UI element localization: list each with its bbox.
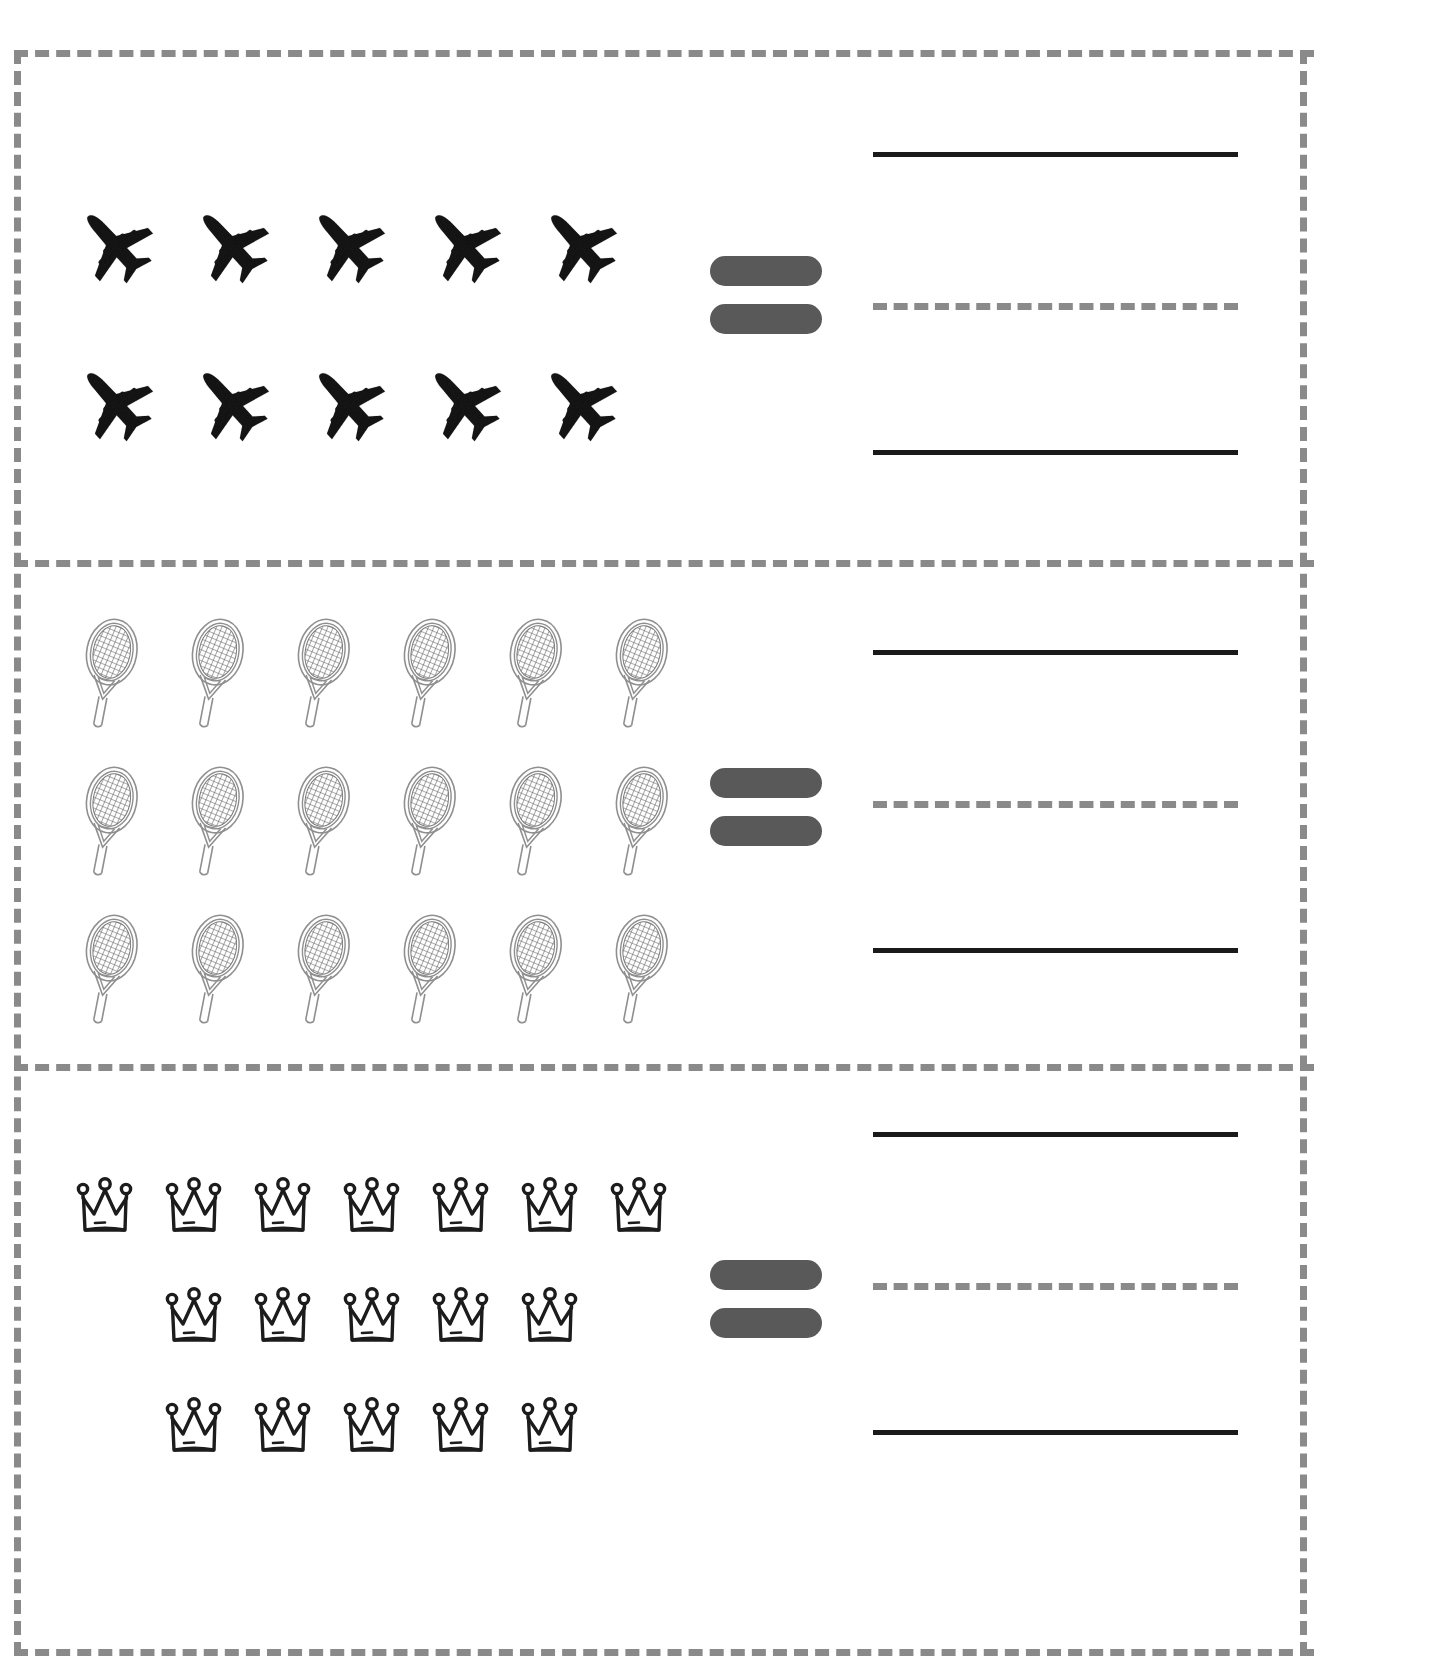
- crown-icon: [430, 1286, 492, 1348]
- equals-bar-top: [710, 768, 822, 798]
- tennis-racket-icon: [608, 756, 674, 880]
- equals-bar-top: [710, 256, 822, 286]
- answer-line-bottom: [873, 948, 1238, 953]
- problem-3: [0, 1064, 1434, 1624]
- icon-row: [74, 1176, 670, 1238]
- crown-icon: [341, 1176, 403, 1238]
- airplane-icon: [534, 360, 624, 444]
- tennis-racket-icon: [78, 608, 144, 732]
- problem-2-icon-area: [60, 560, 680, 1064]
- equals-bar-bottom: [710, 304, 822, 334]
- airplane-icon: [418, 360, 508, 444]
- crown-icon: [252, 1176, 314, 1238]
- answer-area[interactable]: [873, 152, 1238, 455]
- crown-icon: [430, 1176, 492, 1238]
- problem-1-icon-area: [60, 56, 680, 560]
- airplane-icon: [302, 202, 392, 286]
- crown-icon: [519, 1176, 581, 1238]
- crown-icon: [519, 1286, 581, 1348]
- tennis-racket-icon: [396, 904, 462, 1028]
- airplane-icon: [186, 202, 276, 286]
- answer-line-middle-guide: [873, 303, 1238, 310]
- tennis-racket-icon: [78, 904, 144, 1028]
- tennis-racket-icon: [184, 608, 250, 732]
- crown-icon: [163, 1396, 225, 1458]
- tennis-racket-icon: [502, 608, 568, 732]
- crown-icon: [608, 1176, 670, 1238]
- icon-row: [70, 202, 624, 286]
- icon-row: [78, 608, 674, 732]
- airplane-icon: [418, 202, 508, 286]
- icon-row: [78, 904, 674, 1028]
- equals-sign: [710, 256, 822, 334]
- answer-line-bottom: [873, 450, 1238, 455]
- airplane-icon: [70, 360, 160, 444]
- tennis-racket-icon: [290, 608, 356, 732]
- equals-sign: [710, 1260, 822, 1338]
- equals-bar-bottom: [710, 816, 822, 846]
- icon-row: [70, 360, 624, 444]
- crown-icon: [74, 1176, 136, 1238]
- tennis-racket-icon: [396, 756, 462, 880]
- answer-line-middle-guide: [873, 801, 1238, 808]
- tennis-racket-icon: [184, 904, 250, 1028]
- tennis-racket-icon: [290, 904, 356, 1028]
- icon-row: [163, 1396, 581, 1458]
- tennis-racket-icon: [502, 756, 568, 880]
- equals-bar-top: [710, 1260, 822, 1290]
- tennis-racket-icon: [290, 756, 356, 880]
- airplane-icon: [70, 202, 160, 286]
- equals-bar-bottom: [710, 1308, 822, 1338]
- icon-row: [78, 756, 674, 880]
- answer-line-middle-guide: [873, 1283, 1238, 1290]
- airplane-icon: [302, 360, 392, 444]
- crown-icon: [252, 1396, 314, 1458]
- crown-icon: [252, 1286, 314, 1348]
- crown-icon: [430, 1396, 492, 1458]
- problem-1: [0, 56, 1434, 560]
- crown-icon: [341, 1396, 403, 1458]
- tennis-racket-icon: [396, 608, 462, 732]
- icon-row: [163, 1286, 581, 1348]
- tennis-racket-icon: [78, 756, 144, 880]
- tennis-racket-icon: [502, 904, 568, 1028]
- tennis-racket-icon: [184, 756, 250, 880]
- tennis-racket-icon: [608, 904, 674, 1028]
- answer-area[interactable]: [873, 1132, 1238, 1435]
- answer-line-bottom: [873, 1430, 1238, 1435]
- crown-icon: [163, 1286, 225, 1348]
- problem-3-icon-area: [60, 1064, 680, 1624]
- crown-icon: [341, 1286, 403, 1348]
- answer-area[interactable]: [873, 650, 1238, 953]
- worksheet-page: [0, 0, 1434, 1678]
- crown-icon: [163, 1176, 225, 1238]
- problem-2: [0, 560, 1434, 1064]
- crown-icon: [519, 1396, 581, 1458]
- airplane-icon: [534, 202, 624, 286]
- tennis-racket-icon: [608, 608, 674, 732]
- airplane-icon: [186, 360, 276, 444]
- equals-sign: [710, 768, 822, 846]
